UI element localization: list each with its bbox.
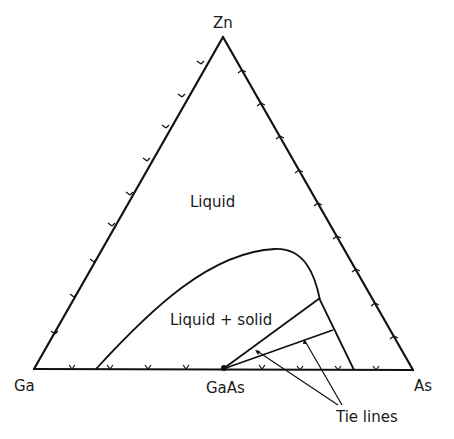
ticks-left-edge [51,61,204,334]
ternary-diagram: Zn Ga As GaAs Liquid Liquid + solid Tie … [0,0,454,439]
vertex-label-ga: Ga [14,377,35,395]
gaas-point [221,365,227,371]
vertex-label-zn: Zn [213,14,233,32]
tie-line-1 [223,298,320,369]
region-label-liquid: Liquid [190,193,235,211]
arrow-head-1 [255,350,260,355]
compound-label-gaas: GaAs [206,379,245,397]
liquidus-curve [96,249,354,370]
annotation-tie-lines: Tie lines [335,408,398,426]
vertex-label-as: As [414,377,432,395]
tie-line-2 [223,330,333,369]
region-label-liquid-solid: Liquid + solid [170,311,272,329]
